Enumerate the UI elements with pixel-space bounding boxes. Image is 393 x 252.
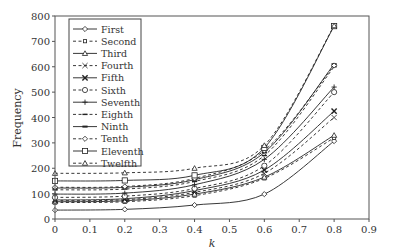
data-point-marker <box>192 173 197 178</box>
data-point-marker <box>332 115 337 120</box>
data-point-marker <box>82 148 87 153</box>
legend-label: Eighth <box>101 109 133 120</box>
x-tick-label: 0.8 <box>326 224 342 235</box>
legend-label: Second <box>101 36 136 47</box>
y-tick-label: 700 <box>31 36 50 47</box>
x-axis-label: k <box>209 237 216 250</box>
legend-label: Tenth <box>101 133 128 144</box>
legend: FirstSecondThirdFourthFifthSixthSeventhE… <box>69 19 144 169</box>
legend-label: Fourth <box>101 60 133 71</box>
y-tick-label: 800 <box>31 11 50 22</box>
legend-label: Sixth <box>101 85 126 96</box>
data-point-marker <box>122 178 127 183</box>
y-tick-label: 400 <box>31 113 50 124</box>
data-point-marker <box>122 184 127 189</box>
x-tick-label: 0.2 <box>117 224 133 235</box>
x-tick-label: 0.6 <box>256 224 272 235</box>
data-point-marker <box>192 166 197 171</box>
y-tick-label: 500 <box>31 87 50 98</box>
legend-label: Fifth <box>101 72 124 83</box>
y-tick-label: 0 <box>44 214 50 225</box>
x-tick-label: 0.7 <box>291 224 307 235</box>
y-tick-label: 200 <box>31 163 50 174</box>
legend-label: Twelfth <box>101 158 137 169</box>
legend-label: Seventh <box>101 97 140 108</box>
data-point-marker <box>262 163 267 168</box>
y-tick-label: 600 <box>31 62 50 73</box>
x-tick-label: 0.3 <box>152 224 168 235</box>
line-chart: 010020030040050060070080000.10.20.30.40.… <box>0 0 393 252</box>
legend-label: Third <box>101 48 127 59</box>
x-tick-label: 0.4 <box>187 224 203 235</box>
legend-label: Eleventh <box>101 146 144 157</box>
data-point-marker <box>332 90 337 95</box>
data-point-marker <box>332 133 337 138</box>
data-point-marker <box>122 207 127 212</box>
legend-label: Ninth <box>101 121 128 132</box>
x-tick-label: 0 <box>52 224 58 235</box>
data-point-marker <box>262 192 267 197</box>
data-point-marker <box>192 202 197 207</box>
x-tick-label: 0.9 <box>361 224 377 235</box>
data-point-marker <box>332 109 337 114</box>
x-tick-label: 0.1 <box>82 224 98 235</box>
data-point-marker <box>82 87 87 92</box>
x-tick-label: 0.5 <box>221 224 237 235</box>
legend-label: First <box>101 24 124 35</box>
y-tick-label: 300 <box>31 138 50 149</box>
data-point-marker <box>83 40 86 43</box>
y-tick-label: 100 <box>31 189 50 200</box>
y-axis-label: Frequency <box>11 87 24 147</box>
